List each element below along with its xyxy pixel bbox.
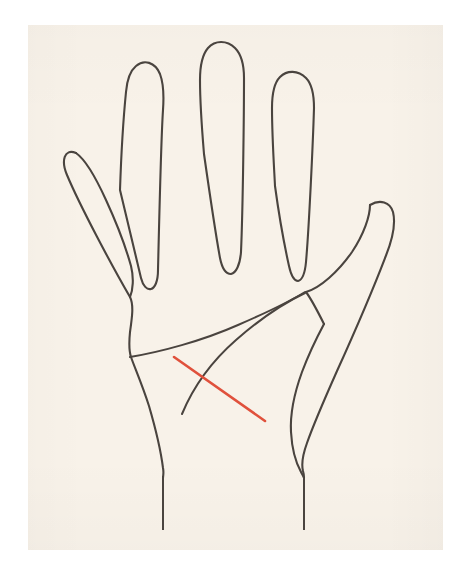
thumb-web-crease [306, 292, 324, 324]
palm-lines-group [130, 292, 305, 414]
head-line [182, 293, 305, 414]
palm-illustration [0, 0, 471, 576]
figure-root [0, 0, 471, 576]
marked-line [174, 357, 265, 421]
index-finger [120, 62, 163, 289]
little-finger-inner-edge [76, 153, 133, 297]
wrist-lines-group [163, 476, 304, 530]
thumb-inner-edge [306, 205, 370, 292]
hand-outline-group [64, 42, 394, 478]
ring-finger [272, 72, 314, 281]
middle-finger [200, 42, 244, 274]
heart-line [130, 292, 305, 357]
highlighted-line-group [174, 357, 265, 421]
thenar-contour [291, 324, 324, 478]
little-finger-and-left-palm-edge [64, 152, 163, 478]
